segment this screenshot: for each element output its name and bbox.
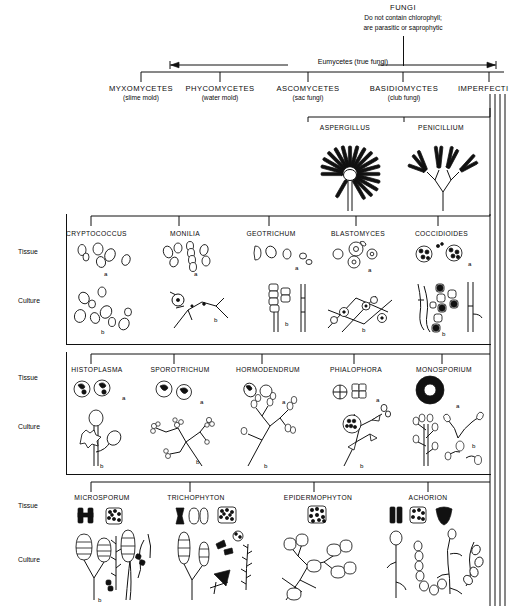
hormodendrum-illustration: a b bbox=[238, 378, 314, 470]
microsporum-illustration: b bbox=[70, 504, 162, 604]
row1-bracket bbox=[66, 214, 491, 228]
class-label-phycomycetes: PHYCOMYCETES bbox=[179, 84, 261, 93]
row1-left-rail bbox=[66, 214, 67, 344]
row3-culture-label: Culture bbox=[18, 556, 40, 563]
svg-text:b: b bbox=[101, 328, 105, 335]
row2-bracket bbox=[66, 352, 491, 366]
svg-text:a: a bbox=[104, 270, 108, 277]
svg-text:a: a bbox=[194, 270, 198, 277]
cryptococcus-illustration: a b bbox=[68, 240, 146, 338]
ascomycete-subbracket bbox=[307, 108, 492, 122]
trichophyton-illustration bbox=[170, 504, 264, 604]
class-bracket bbox=[140, 71, 505, 83]
achorion-illustration bbox=[386, 504, 486, 604]
svg-text:a: a bbox=[200, 398, 204, 405]
genus-label-coccidioides: COCCIDIOIDES bbox=[399, 230, 484, 237]
genus-label-trichophyton: TRICHOPHYTON bbox=[152, 494, 240, 501]
genus-label-phialophora: PHIALOPHORA bbox=[313, 366, 399, 373]
class-common-ascomycetes: (sac fungi) bbox=[268, 94, 348, 101]
row1-divider bbox=[66, 344, 491, 345]
class-common-myxomycetes: (slime mold) bbox=[101, 94, 181, 101]
row2-left-rail bbox=[66, 352, 67, 474]
svg-text:a: a bbox=[122, 394, 126, 401]
row2-divider bbox=[66, 474, 491, 475]
svg-text:a: a bbox=[376, 396, 380, 403]
svg-text:a: a bbox=[468, 260, 472, 267]
penicillium-illustration bbox=[405, 134, 483, 212]
coccidioides-illustration: a b bbox=[410, 240, 484, 338]
class-label-imperfecti: IMPERFECTI bbox=[458, 84, 526, 93]
genus-label-achorion: ACHORION bbox=[388, 494, 468, 501]
row1-culture-label: Culture bbox=[18, 297, 40, 304]
phialophora-illustration: a b bbox=[326, 378, 402, 470]
class-common-basidiomycetes: (club fungi) bbox=[363, 94, 445, 101]
row3-bracket bbox=[66, 480, 491, 494]
blastomyces-illustration: a b bbox=[326, 240, 406, 338]
histoplasma-illustration: a b bbox=[70, 378, 142, 470]
svg-text:b: b bbox=[98, 596, 102, 603]
svg-text:b: b bbox=[264, 462, 268, 469]
class-common-phycomycetes: (water mold) bbox=[179, 94, 261, 101]
eumycetes-label: Eumycetes (true fungi) bbox=[288, 58, 418, 65]
row1-tissue-label: Tissue bbox=[18, 248, 38, 255]
svg-text:b: b bbox=[100, 462, 104, 469]
svg-text:a: a bbox=[368, 266, 372, 273]
genus-label-histoplasma: HISTOPLASMA bbox=[58, 366, 136, 373]
svg-text:b: b bbox=[362, 326, 366, 333]
svg-text:b: b bbox=[196, 458, 200, 465]
imperfecti-trunk bbox=[487, 94, 509, 606]
page-title: FUNGI bbox=[343, 3, 463, 12]
svg-text:b: b bbox=[442, 330, 446, 337]
class-label-basidiomycetes: BASIDIOMYCTES bbox=[363, 84, 445, 93]
title-line-2: are parasitic or saprophytic bbox=[323, 24, 483, 31]
title-line-1: Do not contain chlorophyll; bbox=[323, 14, 483, 21]
geotrichum-illustration: a b bbox=[245, 240, 323, 338]
genus-label-microsporum: MICROSPORUM bbox=[58, 494, 146, 501]
class-label-myxomycetes: MYXOMYCETES bbox=[101, 84, 181, 93]
svg-text:a: a bbox=[282, 398, 286, 405]
row3-tissue-label: Tissue bbox=[18, 502, 38, 509]
monosporium-illustration: a b bbox=[410, 374, 486, 470]
class-label-ascomycetes: ASCOMYCETES bbox=[268, 84, 348, 93]
genus-label-penicillium: PENICILLIUM bbox=[395, 124, 487, 131]
genus-label-hormodendrum: HORMODENDRUM bbox=[220, 366, 316, 373]
genus-label-epidermophyton: EPIDERMOPHYTON bbox=[270, 494, 366, 501]
genus-label-blastomyces: BLASTOMYCES bbox=[317, 230, 399, 237]
genus-label-aspergillus: ASPERGILLUS bbox=[300, 124, 390, 131]
fungi-taxonomy-diagram: FUNGI Do not contain chlorophyll; are pa… bbox=[0, 0, 526, 609]
svg-text:a: a bbox=[456, 402, 460, 409]
svg-text:b: b bbox=[472, 442, 476, 449]
genus-label-monilia: MONILIA bbox=[145, 230, 225, 237]
svg-text:b: b bbox=[285, 320, 289, 327]
svg-text:b: b bbox=[360, 462, 364, 469]
genus-label-sporotrichum: SPOROTRICHUM bbox=[136, 366, 224, 373]
svg-text:b: b bbox=[214, 316, 218, 323]
aspergillus-illustration bbox=[312, 134, 388, 212]
monilia-illustration: a b bbox=[158, 240, 238, 338]
genus-label-geotrichum: GEOTRICHUM bbox=[230, 230, 312, 237]
row2-culture-label: Culture bbox=[18, 423, 40, 430]
genus-label-monosporium: MONOSPORIUM bbox=[398, 366, 490, 373]
epidermophyton-illustration bbox=[278, 504, 364, 604]
svg-text:a: a bbox=[295, 264, 299, 271]
row2-tissue-label: Tissue bbox=[18, 374, 38, 381]
sporotrichum-illustration: a b bbox=[150, 378, 226, 470]
